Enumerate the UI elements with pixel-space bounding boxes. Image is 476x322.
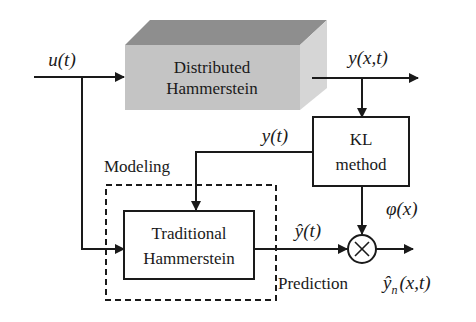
kl-label-line2: method: [336, 155, 387, 174]
block-diagram: Distributed Hammerstein u(t) y(x,t) KL m…: [0, 0, 476, 322]
kl-label-line1: KL: [350, 130, 373, 149]
prediction-label: Prediction: [278, 274, 348, 293]
distributed-label-line2: Hammerstein: [166, 79, 258, 98]
block-front-face: [125, 45, 300, 110]
temporal-hat-signal-label: ŷ(t): [293, 220, 321, 242]
distributed-hammerstein-block: Distributed Hammerstein: [125, 20, 327, 110]
traditional-label-line1: Traditional: [152, 224, 227, 243]
output-signal-label: y(x,t): [346, 47, 388, 69]
traditional-hammerstein-block: Traditional Hammerstein: [124, 211, 254, 279]
prediction-output-label: ŷn(x,t): [381, 272, 431, 297]
input-signal-label: u(t): [48, 49, 75, 71]
modeling-label: Modeling: [104, 157, 171, 176]
basis-signal-label: φ(x): [386, 198, 418, 220]
multiplier-node: [348, 235, 376, 263]
block-top-face: [125, 20, 327, 45]
traditional-label-line2: Hammerstein: [143, 249, 235, 268]
temporal-arrow: [196, 152, 313, 210]
distributed-label-line1: Distributed: [174, 58, 251, 77]
temporal-signal-label: y(t): [260, 125, 288, 147]
kl-method-block: KL method: [313, 117, 409, 186]
